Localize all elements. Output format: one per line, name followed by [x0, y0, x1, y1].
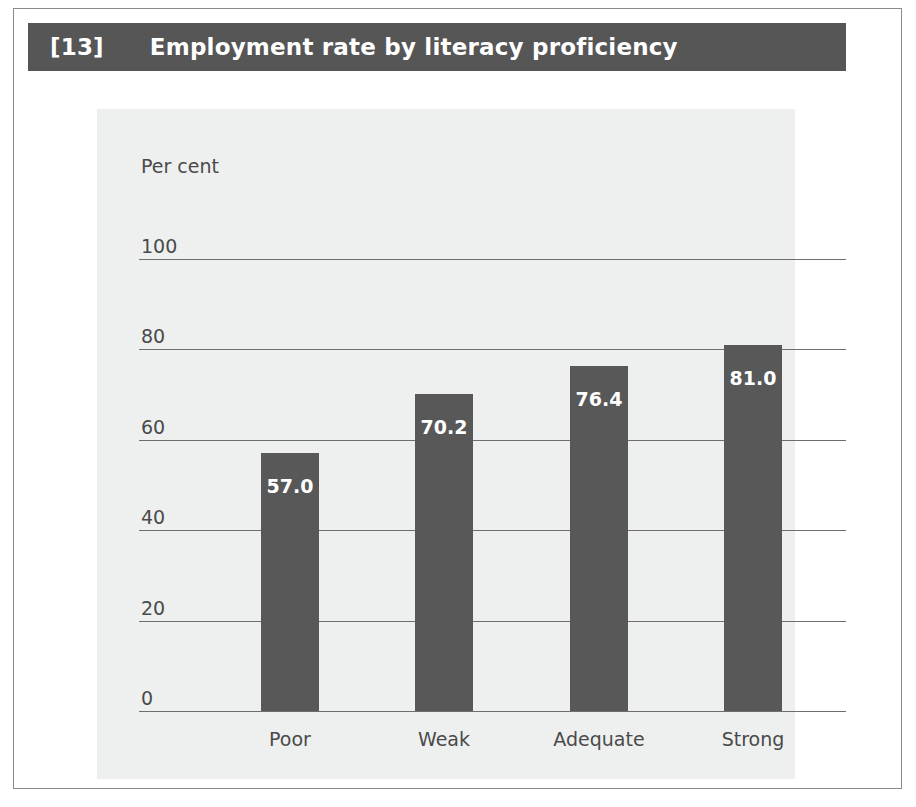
- figure-frame: [13] Employment rate by literacy profici…: [13, 8, 902, 789]
- chart-plot-panel: [97, 109, 795, 779]
- figure-number-label: [13]: [50, 34, 104, 60]
- figure-title-banner: [13] Employment rate by literacy profici…: [28, 23, 846, 71]
- figure-title: Employment rate by literacy proficiency: [150, 34, 678, 60]
